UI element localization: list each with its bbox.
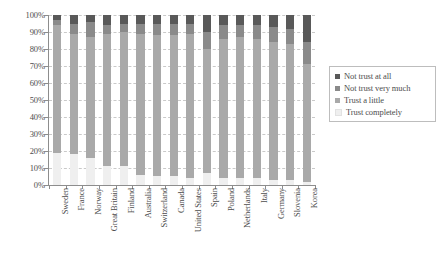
- y-tick-label: 30%: [5, 130, 45, 139]
- bar-segment: [120, 15, 128, 24]
- stacked-bar: [219, 15, 227, 185]
- stacked-bar: [269, 15, 277, 185]
- bar-slot: [170, 15, 178, 185]
- bar-segment: [303, 15, 311, 42]
- bar-segment: [286, 15, 294, 29]
- legend-item[interactable]: Not trust at all: [335, 71, 431, 81]
- bar-segment: [70, 154, 78, 185]
- bar-segment: [186, 24, 194, 34]
- bar-segment: [186, 34, 194, 179]
- bar-segment: [253, 25, 261, 39]
- x-tick-label: Great Britain: [110, 188, 119, 231]
- bar-segment: [269, 27, 277, 42]
- x-tick-label-text: Finland: [127, 188, 136, 213]
- bar-slot: [253, 15, 261, 185]
- bar-slot: [269, 15, 277, 185]
- stacked-bar: [186, 15, 194, 185]
- bar-slot: [303, 15, 311, 185]
- bar-segment: [236, 25, 244, 37]
- bar-segment: [70, 24, 78, 34]
- x-tick-label: Korea: [310, 188, 319, 208]
- stacked-bar: [303, 15, 311, 185]
- x-tick-label: Norway: [94, 188, 103, 215]
- legend-swatch-icon: [335, 98, 340, 103]
- bar-segment: [170, 24, 178, 36]
- bar-segment: [86, 37, 94, 158]
- bar-segment: [86, 22, 94, 37]
- x-tick-label: Spain: [210, 188, 219, 207]
- stacked-bar: [103, 15, 111, 185]
- legend-item[interactable]: Not trust very much: [335, 83, 431, 93]
- x-tick-label: Switzerland: [160, 188, 169, 228]
- bar-segment: [303, 42, 311, 64]
- bar-slot: [136, 15, 144, 185]
- y-tick-label: 60%: [5, 79, 45, 88]
- x-tick-label-text: Sweden: [61, 188, 70, 214]
- y-tick-label: 90%: [5, 28, 45, 37]
- bar-segment: [269, 15, 277, 27]
- x-tick-label-text: Switzerland: [160, 188, 169, 228]
- x-tick-label: Sweden: [61, 188, 70, 214]
- x-tick-label-text: Poland: [227, 188, 236, 211]
- x-tick-label: Germany: [277, 188, 286, 219]
- x-tick-label-text: Spain: [210, 188, 219, 207]
- x-axis-labels: SwedenFranceNorwayGreat BritainFinlandAu…: [0, 188, 441, 263]
- bar-segment: [70, 34, 78, 155]
- bar-segment: [186, 15, 194, 24]
- bar-segment: [286, 180, 294, 185]
- bar-segment: [153, 15, 161, 24]
- stacked-bar: [203, 15, 211, 185]
- x-tick-label-text: Slovenia: [293, 188, 302, 217]
- bar-segment: [303, 182, 311, 185]
- bar-slot: [53, 15, 61, 185]
- x-tick-label-text: Italy: [260, 188, 269, 203]
- stacked-bar: [120, 15, 128, 185]
- bar-segment: [86, 158, 94, 185]
- x-tick-label: Canada: [177, 188, 186, 213]
- legend-item[interactable]: Trust a little: [335, 95, 431, 105]
- x-tick-label: Finland: [127, 188, 136, 213]
- bar-slot: [86, 15, 94, 185]
- y-axis: 100%90%80%70%60%50%40%30%20%10%0%: [0, 15, 45, 186]
- x-tick-label: Slovenia: [293, 188, 302, 217]
- x-tick-label: Poland: [227, 188, 236, 211]
- bar-slot: [153, 15, 161, 185]
- legend-item[interactable]: Trust completely: [335, 107, 431, 117]
- legend: Not trust at allNot trust very muchTrust…: [329, 66, 436, 122]
- y-tick-label: 100%: [5, 11, 45, 20]
- stacked-bar: [253, 15, 261, 185]
- bar-segment: [203, 173, 211, 185]
- bar-segment: [136, 175, 144, 185]
- x-tick-label: Australia: [144, 188, 153, 218]
- y-tick-label: 40%: [5, 113, 45, 122]
- bar-segment: [203, 49, 211, 173]
- bar-segment: [269, 42, 277, 180]
- stacked-bar: [236, 15, 244, 185]
- bar-segment: [170, 35, 178, 176]
- stacked-bar: [70, 15, 78, 185]
- x-tick-label-text: Netherlands: [243, 188, 252, 228]
- x-tick-label-text: France: [77, 188, 86, 211]
- legend-label: Not trust very much: [344, 83, 410, 93]
- bar-segment: [136, 15, 144, 24]
- stacked-bar: [153, 15, 161, 185]
- bar-segment: [236, 37, 244, 178]
- bar-segment: [153, 176, 161, 185]
- legend-label: Not trust at all: [344, 71, 391, 81]
- bar-slot: [120, 15, 128, 185]
- bar-segment: [170, 15, 178, 24]
- bar-segment: [203, 15, 211, 32]
- bar-slot: [70, 15, 78, 185]
- bar-segment: [103, 34, 111, 167]
- legend-swatch-icon: [335, 109, 342, 116]
- bar-segment: [103, 25, 111, 34]
- bar-segment: [219, 39, 227, 178]
- plot-area: [49, 15, 315, 185]
- legend-label: Trust completely: [346, 107, 402, 117]
- x-tick-label-text: United States: [194, 188, 203, 232]
- bar-segment: [120, 24, 128, 33]
- bar-segment: [153, 35, 161, 176]
- stacked-bar: [86, 15, 94, 185]
- bar-group: [49, 15, 315, 185]
- bar-segment: [269, 180, 277, 185]
